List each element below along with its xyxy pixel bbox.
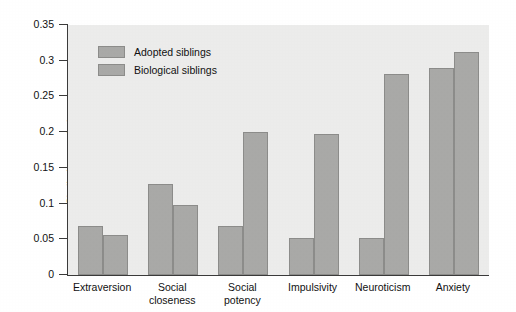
y-axis-tick: 0.05 [59,238,68,239]
legend-swatch-icon [98,64,125,76]
y-axis-tick-label: 0.1 [39,197,54,209]
y-axis-tick-label: 0.25 [34,89,54,101]
bar-biological [243,132,268,275]
y-axis-tick: 0.25 [59,95,68,96]
bar-biological [384,74,409,275]
y-axis-tick: 0.1 [59,203,68,204]
x-axis-label: Anxiety [418,281,488,294]
x-axis-label: Social potency [207,281,277,306]
bar-biological [454,52,479,275]
legend-swatch-icon [98,46,125,58]
legend-item: Adopted siblings [98,44,217,59]
bar-adopted [148,184,173,275]
legend-label: Biological siblings [134,64,217,76]
y-axis-tick: 0.35 [59,24,68,25]
bar-group [429,25,479,275]
bar-chart-figure: Similarity correlation 00.050.10.150.20.… [0,0,516,312]
bar-adopted [218,226,243,275]
chart-legend: Adopted siblingsBiological siblings [98,44,217,80]
bar-biological [173,205,198,275]
x-axis-label: Neuroticism [348,281,418,294]
bar-adopted [429,68,454,275]
y-axis-tick: 0.15 [59,167,68,168]
x-axis-label: Social closeness [137,281,207,306]
bar-adopted [289,238,314,275]
legend-label: Adopted siblings [134,46,211,58]
y-axis-tick: 0 [59,274,68,275]
y-axis-tick-label: 0.15 [34,161,54,173]
y-axis-tick: 0.3 [59,60,68,61]
y-axis-tick: 0.2 [59,131,68,132]
legend-item: Biological siblings [98,62,217,77]
bar-adopted [78,226,103,275]
y-axis-tick-label: 0.35 [34,18,54,30]
y-axis-tick-label: 0.3 [39,54,54,66]
bar-adopted [359,238,384,275]
y-axis-tick-label: 0 [48,268,54,280]
x-axis-label: Impulsivity [278,281,348,294]
bar-group [218,25,268,275]
bar-biological [103,235,128,275]
y-axis-tick-label: 0.05 [34,232,54,244]
bar-group [289,25,339,275]
y-axis-tick-label: 0.2 [39,125,54,137]
x-axis-label: Extraversion [67,281,137,294]
bar-biological [314,134,339,275]
bar-group [359,25,409,275]
